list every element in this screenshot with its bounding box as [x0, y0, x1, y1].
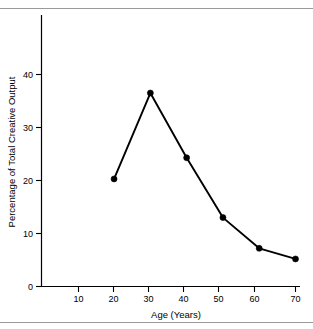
data-point-marker	[293, 256, 299, 262]
x-tick-label-60: 60	[249, 294, 259, 304]
x-axis-tick-labels: 10 20 30 40 50 60 70	[73, 294, 300, 304]
y-axis-title: Percentage of Total Creative Output	[6, 76, 17, 227]
y-axis-ticks	[36, 75, 42, 287]
x-tick-label-50: 50	[213, 294, 223, 304]
figure-canvas: 0 10 20 30 40 10 20 30 40 50 60 70 Age	[0, 0, 313, 329]
x-tick-label-30: 30	[143, 294, 153, 304]
series-line-path	[114, 93, 295, 259]
line-chart: 0 10 20 30 40 10 20 30 40 50 60 70 Age	[0, 0, 313, 329]
y-tick-label-0: 0	[28, 282, 33, 292]
y-axis-tick-labels: 0 10 20 30 40	[23, 70, 33, 292]
data-point-marker	[111, 176, 117, 182]
series-marker-group	[111, 90, 298, 262]
data-point-marker	[147, 90, 153, 96]
x-tick-label-20: 20	[108, 294, 118, 304]
data-point-marker	[220, 215, 226, 221]
y-tick-label-30: 30	[23, 123, 33, 133]
data-point-marker	[256, 245, 262, 251]
x-axis-ticks	[79, 287, 296, 293]
y-tick-label-40: 40	[23, 70, 33, 80]
y-tick-label-10: 10	[23, 229, 33, 239]
data-point-marker	[184, 155, 190, 161]
x-tick-label-70: 70	[290, 294, 300, 304]
x-axis-title: Age (Years)	[151, 309, 201, 320]
y-tick-label-20: 20	[23, 176, 33, 186]
x-tick-label-10: 10	[73, 294, 83, 304]
x-tick-label-40: 40	[178, 294, 188, 304]
